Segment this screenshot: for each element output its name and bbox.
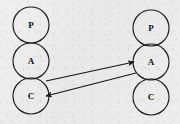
node-right-c[interactable]: C xyxy=(133,79,169,115)
node-left-p[interactable]: P xyxy=(13,7,49,43)
links-group xyxy=(46,62,136,96)
link-right-a-to-left-c[interactable] xyxy=(46,73,136,96)
node-left-a-label: A xyxy=(28,56,35,66)
node-right-a-label: A xyxy=(148,57,155,67)
node-left-a[interactable]: A xyxy=(13,43,49,79)
diagram-svg: P A C P A C xyxy=(0,0,180,124)
diagram-canvas: P A C P A C xyxy=(0,0,180,124)
right-stack-group: P A C xyxy=(133,10,169,115)
node-left-p-label: P xyxy=(28,20,34,30)
node-left-c[interactable]: C xyxy=(13,78,49,114)
link-left-c-to-right-a[interactable] xyxy=(46,62,134,81)
node-right-p-label: P xyxy=(148,23,154,33)
node-right-a[interactable]: A xyxy=(133,44,169,80)
node-right-p[interactable]: P xyxy=(133,10,169,46)
node-left-c-label: C xyxy=(28,91,35,101)
node-right-c-label: C xyxy=(148,92,155,102)
left-stack-group: P A C xyxy=(13,7,49,114)
